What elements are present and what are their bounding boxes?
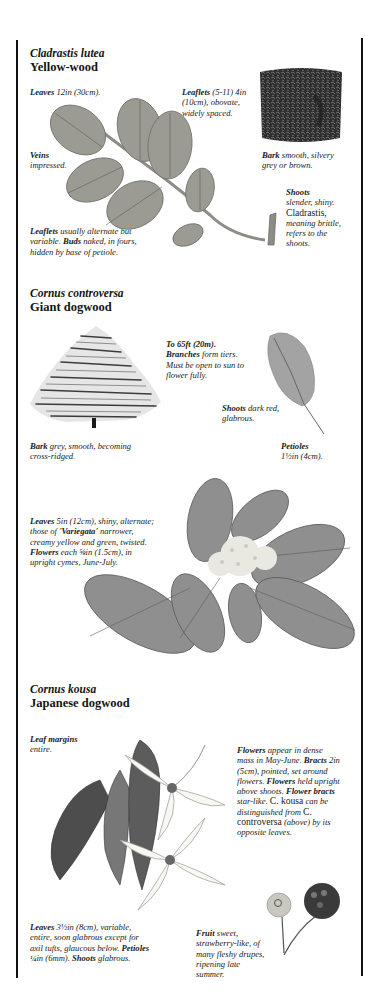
scientific-name: Cladrastis lutea (30, 47, 104, 60)
note-flowers-bracts: Flowers appear in dense mass in May-June… (237, 745, 342, 838)
scientific-name: Cornus controversa (30, 287, 124, 300)
single-leaf-illustration (262, 326, 342, 436)
tree-illustration (26, 322, 166, 432)
note-shoots: Shootsslender, shiny.Cladrastis, meaning… (286, 187, 352, 249)
page-border-right (361, 38, 363, 976)
leaf-branch-illustration (40, 95, 290, 255)
flower-leaf-illustration (30, 720, 230, 920)
common-name: Giant dogwood (30, 300, 124, 314)
note-height-branches: To 65ft (20m).Branches form tiers. Must … (166, 339, 256, 380)
note-leaves-petioles: Leaves 3½in (8cm), variable, entire, soo… (30, 922, 150, 963)
common-name: Japanese dogwood (30, 696, 130, 710)
fruit-illustration (262, 885, 352, 965)
species-heading-cladrastis: Cladrastis lutea Yellow-wood (30, 47, 104, 74)
common-name: Yellow-wood (30, 60, 104, 74)
flowering-branch-illustration (60, 478, 360, 650)
page-border-left (16, 40, 18, 978)
note-bark: Bark grey, smooth, becoming cross-ridged… (30, 441, 145, 462)
species-heading-controversa: Cornus controversa Giant dogwood (30, 287, 124, 314)
scientific-name: Cornus kousa (30, 683, 130, 696)
note-fruit: Fruit sweet, strawberry-like, of many fl… (196, 928, 266, 979)
note-petioles: Petioles1½in (4cm). (281, 441, 341, 462)
species-heading-kousa: Cornus kousa Japanese dogwood (30, 683, 130, 710)
